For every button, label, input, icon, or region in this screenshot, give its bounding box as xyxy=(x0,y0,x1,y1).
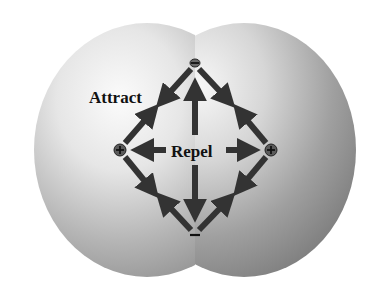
charge-left-positive xyxy=(114,144,126,156)
attract-label: Attract xyxy=(89,88,142,107)
charge-top-negative xyxy=(190,59,200,67)
charge-right-positive xyxy=(265,144,277,156)
repel-label: Repel xyxy=(171,142,213,161)
diagram-canvas: Attract Repel xyxy=(0,0,379,290)
